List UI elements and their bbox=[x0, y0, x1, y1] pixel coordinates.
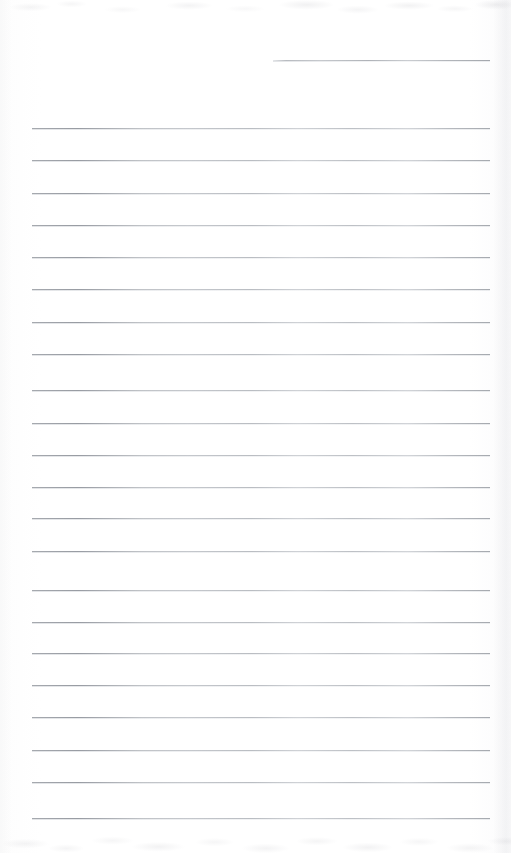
rule-line-2 bbox=[32, 160, 490, 161]
scanned-page bbox=[0, 0, 511, 853]
rule-line-20 bbox=[32, 750, 490, 751]
rule-line-15 bbox=[32, 590, 490, 591]
rule-line-11 bbox=[32, 455, 490, 456]
rule-line-10 bbox=[32, 423, 490, 424]
rule-line-12 bbox=[32, 487, 490, 488]
rule-line-9 bbox=[32, 390, 490, 391]
rule-line-22 bbox=[32, 818, 490, 819]
rule-line-21 bbox=[32, 782, 490, 783]
rule-line-8 bbox=[32, 354, 490, 355]
rule-line-7 bbox=[32, 322, 490, 323]
rule-line-17 bbox=[32, 653, 490, 654]
rule-line-14 bbox=[32, 551, 490, 552]
rule-line-19 bbox=[32, 717, 490, 718]
rule-line-partial bbox=[273, 60, 490, 61]
rule-line-6 bbox=[32, 289, 490, 290]
rule-line-5 bbox=[32, 257, 490, 258]
rule-line-18 bbox=[32, 685, 490, 686]
rule-line-13 bbox=[32, 518, 490, 519]
rule-line-4 bbox=[32, 225, 490, 226]
rule-line-1 bbox=[32, 128, 490, 129]
rule-line-3 bbox=[32, 193, 490, 194]
ruled-lines-layer bbox=[0, 0, 511, 853]
rule-line-16 bbox=[32, 622, 490, 623]
